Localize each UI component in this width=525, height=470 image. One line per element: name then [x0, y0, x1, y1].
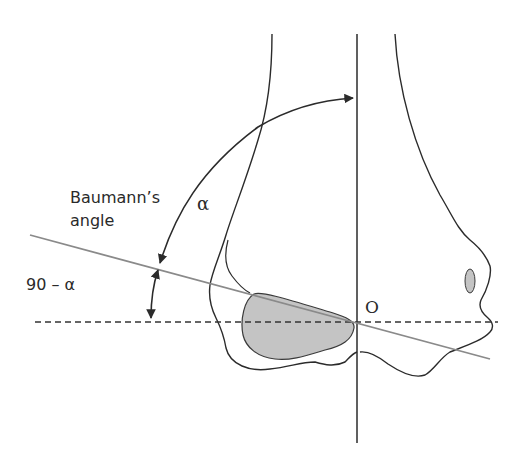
- baumann-label-line2: angle: [70, 211, 114, 230]
- alpha-angle-arc-arrow: [160, 98, 353, 263]
- origin-label: O: [365, 297, 379, 317]
- baumann-label-line1: Baumann’s: [70, 188, 160, 207]
- humerus-right-shaft-outline: [360, 34, 492, 376]
- baumann-angle-diagram: Baumann’s angle α 90 – α O: [0, 0, 525, 470]
- lateral-condyle-inner-outline: [226, 240, 250, 293]
- ninety-minus-alpha-label: 90 – α: [26, 275, 75, 294]
- shaded-capitellum-region: [242, 293, 354, 359]
- alpha-label: α: [197, 193, 209, 214]
- ninety-minus-alpha-arc-arrow: [151, 270, 158, 318]
- shaded-ossification-ellipse: [465, 269, 475, 293]
